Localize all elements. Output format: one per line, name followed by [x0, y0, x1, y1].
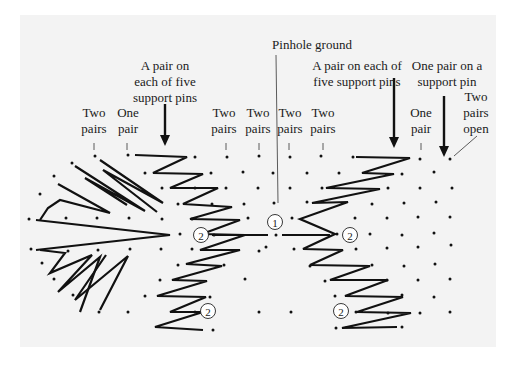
- pin-dot: [334, 295, 337, 298]
- pin-dot: [53, 175, 56, 178]
- pin-dot: [144, 172, 147, 175]
- pin-dot: [194, 311, 197, 314]
- pin-dot: [94, 155, 97, 158]
- svg-text:2: 2: [205, 306, 211, 318]
- pin-dot: [403, 265, 406, 268]
- label-two-pairs-5: Twopairs: [310, 105, 335, 136]
- pin-dot: [386, 247, 389, 250]
- label-right-support-pins: A pair on each offive support pins: [312, 58, 402, 89]
- pin-dot: [72, 294, 75, 297]
- label-two-pairs-2: Twopairs: [211, 105, 236, 136]
- pin-dot: [336, 233, 339, 236]
- pin-dot: [290, 311, 293, 314]
- pin-dot: [212, 329, 215, 332]
- pin-dot: [257, 187, 260, 190]
- pin-dot: [226, 156, 229, 159]
- pin-dot: [324, 280, 327, 283]
- label-two-pairs-1: Twopairs: [81, 105, 106, 136]
- pin-dot: [306, 172, 309, 175]
- pin-dot: [387, 187, 390, 190]
- pin-dot: [306, 201, 309, 204]
- pin-dot: [273, 202, 276, 205]
- pin-dot: [258, 155, 261, 158]
- label-two-pairs-3: Twopairs: [245, 105, 270, 136]
- pin-dot: [434, 263, 437, 266]
- pin-dot: [223, 264, 226, 267]
- pin-dot: [41, 262, 44, 265]
- pin-dot: [191, 218, 194, 221]
- pin-dot: [244, 278, 247, 281]
- pin-dot: [30, 248, 33, 251]
- pin-dot: [243, 203, 246, 206]
- pin-dot: [28, 218, 31, 221]
- pin-dot: [433, 232, 436, 235]
- pin-dot: [65, 217, 68, 220]
- pin-dot: [98, 311, 101, 314]
- pin-dot: [449, 278, 452, 281]
- pin-dot: [213, 234, 216, 237]
- pin-dot: [127, 154, 130, 157]
- pin-dot: [160, 248, 163, 251]
- label-pinhole-ground: Pinhole ground: [272, 37, 352, 52]
- label-one-pair-1: Onepair: [117, 105, 139, 136]
- pin-dot: [209, 296, 212, 299]
- pin-dot: [419, 187, 422, 190]
- pin-dot: [338, 172, 341, 175]
- pin-dot: [291, 217, 294, 220]
- pin-dot: [417, 279, 420, 282]
- pin-dot: [387, 312, 390, 315]
- pin-dot: [419, 158, 422, 161]
- pin-dot: [39, 193, 42, 196]
- pin-dot: [53, 278, 56, 281]
- pin-dot: [265, 246, 268, 249]
- pin-dot: [335, 327, 338, 330]
- pin-dot: [450, 244, 453, 247]
- pin-dot: [309, 265, 312, 268]
- pin-dot: [401, 234, 404, 237]
- label-two-pairs-4: Twopairs: [277, 105, 302, 136]
- pin-dot: [177, 203, 180, 206]
- pin-dot: [129, 248, 132, 251]
- pin-dot: [401, 294, 404, 297]
- step-marker-2: 2: [194, 228, 209, 243]
- pin-dot: [289, 156, 292, 159]
- pin-dot: [211, 203, 214, 206]
- pin-dot: [289, 187, 292, 190]
- pin-dot: [293, 248, 296, 251]
- pin-dot: [96, 217, 99, 220]
- pin-dot: [433, 296, 436, 299]
- step-marker-2: 2: [343, 228, 358, 243]
- pin-dot: [417, 246, 420, 249]
- label-one-pair-support-pin: One pair on asupport pin: [412, 58, 483, 89]
- pin-dot: [371, 203, 374, 206]
- pin-dot: [272, 172, 275, 175]
- pin-dot: [194, 187, 197, 190]
- pin-dot: [97, 249, 100, 252]
- pin-dot: [247, 217, 250, 220]
- pin-dot: [242, 171, 245, 174]
- step-marker-2: 2: [201, 304, 216, 319]
- pin-dot: [127, 311, 130, 314]
- pin-dot: [275, 234, 278, 237]
- pin-dot: [194, 156, 197, 159]
- pin-dot: [386, 279, 389, 282]
- pin-dot: [161, 218, 164, 221]
- pin-dot: [177, 264, 180, 267]
- pin-dot: [191, 248, 194, 251]
- pin-dot: [67, 250, 70, 253]
- svg-text:2: 2: [347, 230, 353, 242]
- pin-dot: [128, 217, 131, 220]
- pin-dot: [386, 217, 389, 220]
- pin-dot: [419, 312, 422, 315]
- pin-dot: [371, 264, 374, 267]
- pin-dot: [403, 202, 406, 205]
- label-left-support-pins: A pair oneach of fivesupport pins: [133, 58, 197, 105]
- pin-dot: [320, 155, 323, 158]
- step-marker-2: 2: [334, 304, 349, 319]
- pin-dot: [258, 250, 261, 253]
- label-two-pairs-open: Twopairsopen: [463, 89, 489, 136]
- pinhole-ground-diagram: 21222 Pinhole groundA pair oneach of fiv…: [0, 0, 515, 365]
- svg-text:1: 1: [272, 217, 278, 229]
- svg-text:2: 2: [338, 306, 344, 318]
- pin-dot: [433, 171, 436, 174]
